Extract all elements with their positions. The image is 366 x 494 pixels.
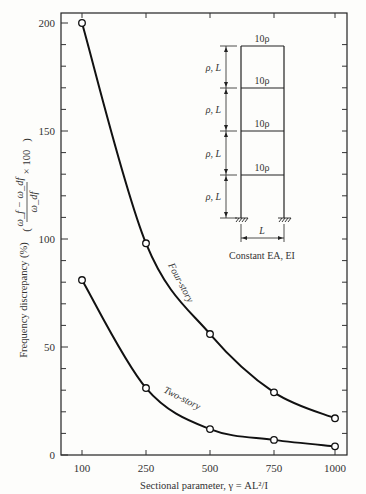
x-tick-1000: 1000 (324, 462, 347, 474)
floor-mass-label-1: 10ρ (255, 162, 270, 173)
data-point-marker (271, 389, 278, 396)
y-axis-formula-multiplier: × 100 (21, 150, 32, 174)
plot-frame (61, 13, 347, 455)
frequency-discrepancy-chart: 200 150 100 50 0 100 250 500 750 1000 Se… (0, 0, 366, 494)
y-axis-label-main: Frequency discrepancy (%) (18, 242, 30, 358)
story-label-1: ρ, L (205, 191, 222, 202)
data-point-marker (143, 385, 150, 392)
dimension-arrowheads (224, 47, 283, 240)
two-story-curve (82, 280, 335, 446)
x-axis-ticks (82, 13, 335, 455)
y-axis-paren-close: ) (21, 138, 33, 142)
y-axis-formula-denominator: ω_df (28, 190, 39, 213)
y-tick-0: 0 (50, 449, 56, 461)
right-axis-ticks (342, 45, 347, 434)
fixed-support-left-icon (235, 218, 248, 222)
data-point-marker (332, 415, 339, 422)
y-axis-ticks (61, 23, 68, 455)
four-story-label: Four-story (166, 260, 197, 305)
width-label: L (258, 225, 265, 236)
x-tick-750: 750 (266, 462, 283, 474)
story-label-3: ρ, L (205, 104, 222, 115)
data-point-marker (79, 20, 86, 27)
y-axis-label: Frequency discrepancy (%) ( ω_f − ω_df ω… (14, 138, 39, 358)
x-tick-500: 500 (202, 462, 219, 474)
data-point-marker (207, 426, 214, 433)
floor-mass-label-2: 10ρ (255, 118, 270, 129)
four-story-curve (82, 23, 335, 418)
y-tick-100: 100 (39, 233, 56, 245)
y-axis-paren-open: ( (21, 228, 33, 232)
fixed-support-right-icon (278, 218, 291, 222)
y-tick-200: 200 (39, 17, 56, 29)
x-axis-label: Sectional parameter, γ = AL²/I (140, 480, 268, 491)
floor-mass-label-3: 10ρ (255, 75, 270, 86)
y-axis-formula-numerator: ω_f − ω_df (14, 176, 25, 227)
diagram-caption: Constant EA, EI (229, 250, 295, 261)
data-point-marker (332, 443, 339, 450)
data-point-marker (79, 277, 86, 284)
x-tick-100: 100 (74, 462, 91, 474)
data-point-marker (143, 240, 150, 247)
data-point-markers (79, 20, 339, 450)
y-tick-50: 50 (44, 341, 56, 353)
story-label-2: ρ, L (205, 148, 222, 159)
x-tick-250: 250 (138, 462, 155, 474)
y-tick-150: 150 (39, 125, 56, 137)
floor-mass-label-4: 10ρ (255, 33, 270, 44)
data-point-marker (207, 331, 214, 338)
story-label-4: ρ, L (205, 62, 222, 73)
data-point-marker (271, 437, 278, 444)
